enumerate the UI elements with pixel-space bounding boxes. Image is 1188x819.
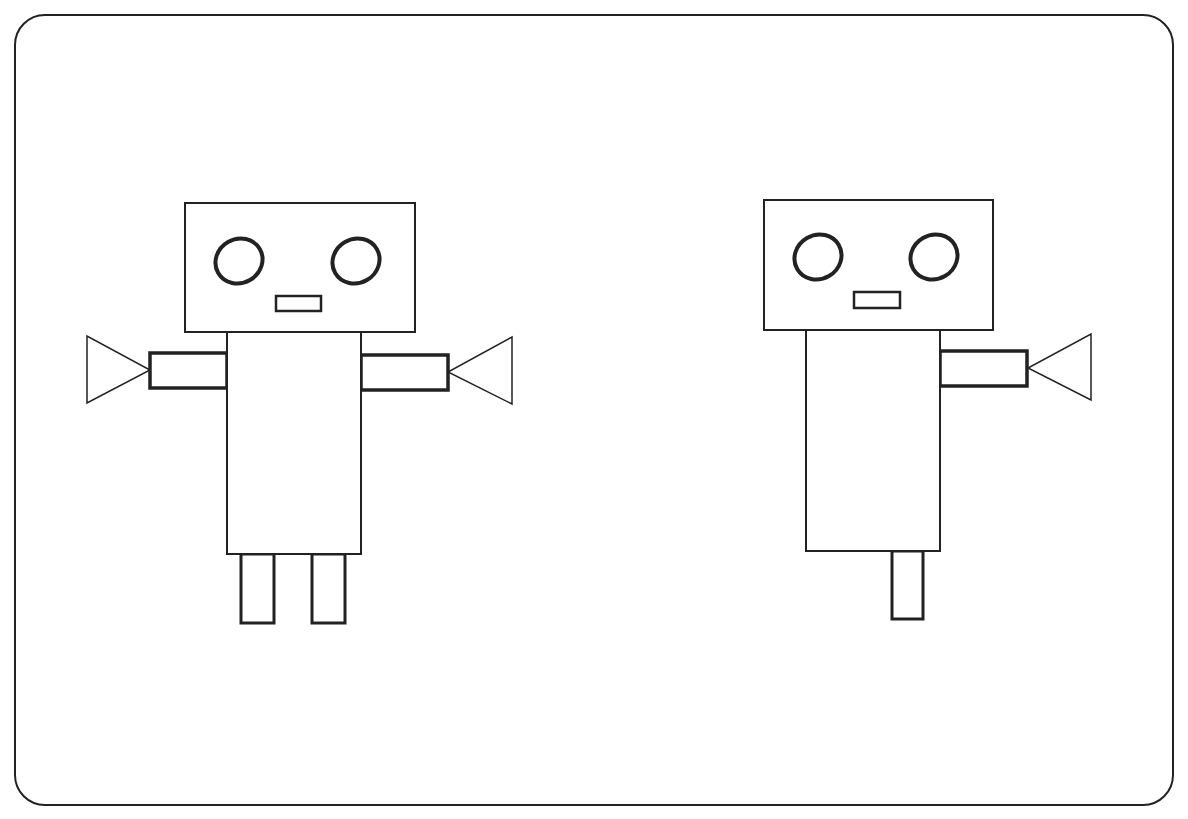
leg [241, 554, 274, 623]
arm [361, 355, 448, 390]
robots-diagram [0, 0, 1188, 819]
hand-triangle [448, 337, 512, 404]
body [227, 332, 361, 554]
frame-border [15, 15, 1173, 805]
leg [892, 551, 923, 619]
arm [940, 351, 1027, 386]
leg [312, 554, 345, 623]
robot-right [764, 200, 1091, 619]
hand-triangle [1028, 334, 1091, 400]
hand-triangle [87, 336, 150, 403]
body [806, 328, 940, 551]
mouth [854, 292, 900, 308]
robot-left [87, 203, 512, 623]
mouth [276, 296, 321, 311]
arm [150, 353, 227, 388]
